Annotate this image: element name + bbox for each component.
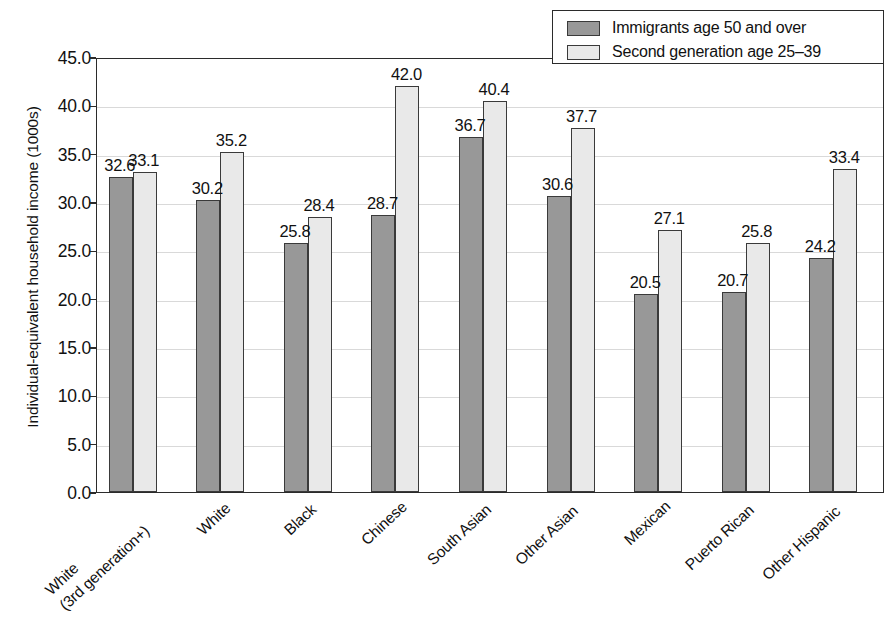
bar <box>722 292 746 492</box>
bar <box>658 230 682 492</box>
y-axis-tick <box>89 251 96 253</box>
x-axis-category-label: Chinese <box>357 497 412 550</box>
x-axis-category-label: White <box>193 499 235 541</box>
y-axis-tick <box>89 57 96 59</box>
y-axis-tick-label: 0.0 <box>67 483 91 504</box>
bar <box>284 243 308 492</box>
y-axis-tick-label: 25.0 <box>58 241 91 262</box>
bar-value-label: 28.4 <box>294 196 344 215</box>
x-axis-label-line: South Asian <box>423 500 496 570</box>
bar <box>220 152 244 492</box>
y-axis-tick <box>89 492 96 494</box>
bar <box>459 137 483 492</box>
bar <box>395 86 419 492</box>
x-axis-label-line: Other Hispanic <box>758 502 845 585</box>
y-axis-tick <box>89 444 96 446</box>
x-axis-category-label: White(3rd generation+) <box>41 506 154 615</box>
bar-value-label: 25.8 <box>270 222 320 241</box>
bar-value-label: 30.6 <box>533 175 583 194</box>
x-axis-label-line: Puerto Rican <box>681 501 759 576</box>
legend-swatch-second-generation <box>567 45 600 60</box>
bar <box>196 200 220 492</box>
bar-value-label: 42.0 <box>381 65 431 84</box>
bar <box>809 258 833 492</box>
bar-value-label: 25.8 <box>732 222 782 241</box>
bar-value-label: 40.4 <box>469 80 519 99</box>
bar <box>634 294 658 492</box>
y-axis-tick-label: 30.0 <box>58 193 91 214</box>
x-axis-category-label: Other Asian <box>511 501 583 570</box>
y-axis-tick-label: 10.0 <box>58 386 91 407</box>
y-axis-tick-label: 45.0 <box>58 48 91 69</box>
y-axis-tick-label: 5.0 <box>67 434 91 455</box>
bar <box>833 169 857 492</box>
x-axis-label-line: Other Asian <box>511 501 583 570</box>
bar-chart-figure: Individual-equivalent household income (… <box>0 0 895 634</box>
bar-value-label: 20.7 <box>708 271 758 290</box>
legend-label-second-generation: Second generation age 25–39 <box>612 43 821 61</box>
bar-value-label: 33.4 <box>819 148 869 167</box>
bar-value-label: 37.7 <box>557 107 607 126</box>
bar-value-label: 33.1 <box>119 151 169 170</box>
x-axis-label-line: Black <box>280 500 321 540</box>
legend-item-immigrants: Immigrants age 50 and over <box>567 17 883 39</box>
x-axis-category-label: South Asian <box>423 500 496 570</box>
bar-value-label: 35.2 <box>206 131 256 150</box>
bar-value-label: 20.5 <box>620 273 670 292</box>
bar <box>133 172 157 492</box>
x-axis-label-line: White <box>193 499 235 541</box>
y-axis-tick <box>89 347 96 349</box>
legend-swatch-immigrants <box>567 21 600 36</box>
y-axis-tick-label: 15.0 <box>58 338 91 359</box>
bar-value-label: 27.1 <box>644 209 694 228</box>
bar-value-label: 24.2 <box>795 237 845 256</box>
y-axis-tick-label: 40.0 <box>58 96 91 117</box>
bar <box>109 177 133 492</box>
bar-value-label: 28.7 <box>357 194 407 213</box>
y-axis-tick <box>89 202 96 204</box>
x-axis-category-label: Other Hispanic <box>758 502 845 585</box>
x-axis-category-label: Puerto Rican <box>681 501 759 576</box>
x-axis-label-line: Mexican <box>620 497 675 551</box>
bar-value-label: 30.2 <box>182 179 232 198</box>
bar <box>371 215 395 492</box>
y-axis-tick <box>89 396 96 398</box>
y-axis-title: Individual-equivalent household income (… <box>24 47 50 487</box>
chart-legend: Immigrants age 50 and over Second genera… <box>552 10 884 64</box>
legend-item-second-generation: Second generation age 25–39 <box>567 41 883 63</box>
bar <box>547 196 571 492</box>
y-axis-tick <box>89 299 96 301</box>
y-axis-tick-label: 35.0 <box>58 144 91 165</box>
y-axis-tick-label: 20.0 <box>58 289 91 310</box>
y-axis-tick <box>89 106 96 108</box>
legend-label-immigrants: Immigrants age 50 and over <box>612 19 806 37</box>
x-axis-category-label: Black <box>280 500 321 540</box>
x-axis-label-line: Chinese <box>357 497 412 550</box>
bar <box>483 101 507 492</box>
bar <box>308 217 332 492</box>
x-axis-category-label: Mexican <box>620 497 675 551</box>
bar-value-label: 36.7 <box>445 116 495 135</box>
